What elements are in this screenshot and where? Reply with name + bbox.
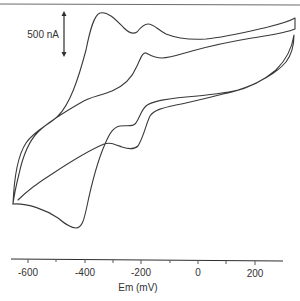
arrow-down-icon xyxy=(62,52,67,57)
x-tick-label: 200 xyxy=(247,268,264,279)
scale-bar-label: 500 nA xyxy=(27,29,59,40)
x-tick-label: 0 xyxy=(195,267,201,278)
arrow-up-icon xyxy=(62,11,67,16)
x-tick-label: -600 xyxy=(18,267,38,278)
top-border-line xyxy=(0,4,300,5)
x-tick-label: -200 xyxy=(131,267,151,278)
scale-bar: 500 nA xyxy=(27,11,66,57)
cyclic-voltammogram-chart: 500 nA -600 -400 -200 0 200 Em (mV) xyxy=(0,0,300,301)
x-tick-label: -400 xyxy=(75,267,95,278)
voltammogram-trace-2 xyxy=(13,35,294,228)
voltammogram-trace-1 xyxy=(13,13,295,204)
x-axis-label: Em (mV) xyxy=(118,282,157,293)
x-axis: -600 -400 -200 0 200 Em (mV) xyxy=(11,259,283,293)
